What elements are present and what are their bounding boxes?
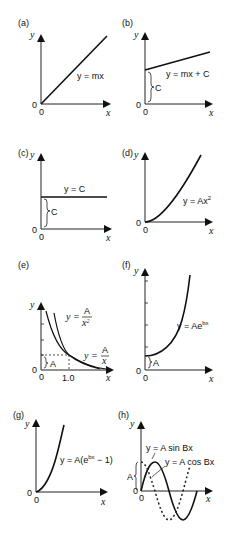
y-axis-label: y <box>24 418 30 429</box>
y-axis-label: y <box>29 149 35 160</box>
svg-text:y =: y = <box>83 350 98 361</box>
svg-text:A: A <box>102 345 108 355</box>
origin-y-label: 0 <box>27 488 32 498</box>
origin-x-label: 0 <box>143 107 148 117</box>
panel-d-quadratic: (d) y x 0 0 y = Ax2 <box>122 148 214 236</box>
origin-y-label: 0 <box>136 218 141 228</box>
x-axis-label: x <box>105 107 111 118</box>
panel-a-linear: (a) y x 0 0 y = mx <box>18 18 111 118</box>
y-axis-label: y <box>129 418 135 429</box>
equation-label: y = A(ebx − 1) <box>60 454 113 465</box>
origin-x-label: 0 <box>143 225 148 235</box>
equation-label: y = mx <box>77 71 104 81</box>
origin-y-label: 0 <box>136 366 141 376</box>
parabola-curve <box>145 155 201 222</box>
brace-icon <box>44 357 48 368</box>
x-axis-label: x <box>100 496 106 507</box>
svg-text:y =: y = <box>65 311 80 322</box>
panel-label: (a) <box>18 18 29 28</box>
x-axis-label: x <box>208 225 214 236</box>
function-graphs-figure: (a) y x 0 0 y = mx (b) y x 0 0 C y = mx … <box>0 0 236 534</box>
panel-f-exponential: (f) y x 0 0 A y = Aebx <box>122 260 214 384</box>
brace-icon <box>148 357 152 368</box>
panel-label: (f) <box>122 260 131 270</box>
panel-b-linear-intercept: (b) y x 0 0 C y = mx + C <box>122 18 214 118</box>
line-curve <box>145 52 210 70</box>
line-curve <box>41 36 107 104</box>
svg-text:A: A <box>84 306 90 316</box>
origin-x-label: 0 <box>39 232 44 242</box>
equation-label: y = Aebx <box>177 320 209 331</box>
sine-equation-label: y = A sin Bx <box>146 443 193 453</box>
origin-y-label: 0 <box>32 365 37 375</box>
origin-y-label: 0 <box>133 486 138 496</box>
panel-g-exponential-offset: (g) y x 0 0 y = A(ebx − 1) <box>13 410 113 507</box>
panel-label: (g) <box>13 410 24 420</box>
amplitude-label: A <box>127 472 133 482</box>
origin-y-label: 0 <box>32 225 37 235</box>
x-axis-label: x <box>208 373 214 384</box>
intercept-label: C <box>155 83 162 93</box>
intercept-label: A <box>50 359 56 369</box>
sine-leader-line <box>152 453 155 459</box>
y-axis-label: y <box>29 29 35 40</box>
panel-c-constant: (c) y x 0 0 C y = C <box>18 148 111 243</box>
origin-x-label: 0 <box>139 493 144 503</box>
equation-label: y = C <box>64 184 86 194</box>
origin-y-label: 0 <box>32 100 37 110</box>
origin-x-label: 0 <box>39 372 44 382</box>
x-axis-label: x <box>105 232 111 243</box>
x-axis-label: x <box>208 107 214 118</box>
brace-icon <box>148 72 154 102</box>
equation-label: y = Ax2 <box>183 195 212 206</box>
panel-label: (c) <box>18 148 29 158</box>
equation-inverse: y = A x <box>83 345 109 366</box>
intercept-label: A <box>153 358 159 368</box>
panel-e-inverse: (e) y x 0 0 A 1.0 y = A x2 y = A x <box>18 260 111 383</box>
equation-inverse-square: y = A x2 <box>65 306 92 328</box>
origin-x-label: 0 <box>39 107 44 117</box>
y-axis-label: y <box>29 299 35 310</box>
panel-h-trig: (h) y x 0 0 A y = A sin Bx y = A cos Bx <box>118 410 215 520</box>
panel-label: (d) <box>122 148 133 158</box>
panel-label: (e) <box>18 260 29 270</box>
x-axis-label: x <box>205 493 211 504</box>
equation-label: y = mx + C <box>166 69 210 79</box>
cosine-equation-label: y = A cos Bx <box>165 457 215 467</box>
exponential-curve <box>145 275 190 356</box>
origin-y-label: 0 <box>136 100 141 110</box>
svg-text:x: x <box>101 355 107 366</box>
panel-label: (b) <box>122 18 133 28</box>
origin-x-label: 0 <box>34 495 39 505</box>
x-axis-label: x <box>105 372 111 383</box>
y-axis-label: y <box>133 265 139 276</box>
origin-x-label: 0 <box>143 373 148 383</box>
y-axis-label: y <box>133 29 139 40</box>
svg-text:x2: x2 <box>81 317 89 328</box>
brace-icon <box>44 199 50 227</box>
y-axis-label: y <box>133 149 139 160</box>
x-tick-label: 1.0 <box>62 373 75 383</box>
panel-label: (h) <box>118 410 129 420</box>
intercept-label: C <box>51 207 58 217</box>
